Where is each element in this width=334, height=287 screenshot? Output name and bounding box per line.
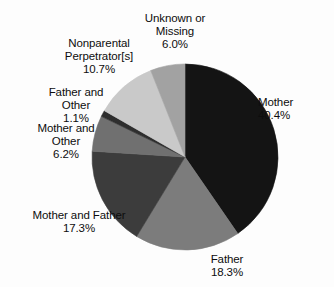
slice-label-father: Father 18.3% <box>182 253 272 279</box>
slice-label-nonparental-perpetrators: Nonparental Perpetrator[s] 10.7% <box>40 37 158 77</box>
slice-label-mother: Mother 40.4% <box>258 96 334 122</box>
slice-label-mother-and-other: Mother and Other 6.2% <box>10 122 122 162</box>
pie-chart-figure: Unknown or Missing 6.0% Nonparental Perp… <box>0 0 334 287</box>
slice-label-mother-and-father: Mother and Father 17.3% <box>4 209 154 235</box>
slice-label-father-and-other: Father and Other 1.1% <box>22 86 130 126</box>
